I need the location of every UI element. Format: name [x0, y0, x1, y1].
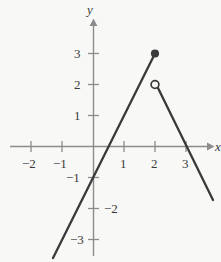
- y-axis-arrowhead: [90, 19, 98, 27]
- open-point-marker: [151, 81, 159, 89]
- increasing-branch-line: [53, 54, 155, 259]
- y-tick-label-pos3: 3: [74, 47, 81, 60]
- y-tick-label-neg1: −1: [66, 171, 80, 184]
- x-axis-label: x: [215, 140, 221, 153]
- coordinate-plot: [0, 0, 221, 262]
- graph-figure: −2 −1 1 2 3 3 2 1 −1 −2 −3 y x: [0, 0, 221, 262]
- decreasing-branch-line: [158, 87, 214, 200]
- x-tick-label-pos2: 2: [151, 157, 158, 170]
- y-axis-label: y: [87, 3, 93, 16]
- closed-point-marker: [151, 49, 159, 57]
- x-axis-arrowhead: [207, 143, 215, 151]
- x-tick-label-neg1: −1: [53, 157, 67, 170]
- x-tick-label-neg2: −2: [22, 157, 36, 170]
- y-axis: [88, 19, 99, 257]
- y-tick-label-neg3: −3: [70, 233, 84, 246]
- y-tick-label-pos2: 2: [74, 78, 81, 91]
- y-tick-label-pos1: 1: [74, 109, 81, 122]
- y-tick-label-neg2: −2: [104, 202, 118, 215]
- x-tick-label-pos3: 3: [182, 157, 189, 170]
- x-tick-label-pos1: 1: [120, 157, 127, 170]
